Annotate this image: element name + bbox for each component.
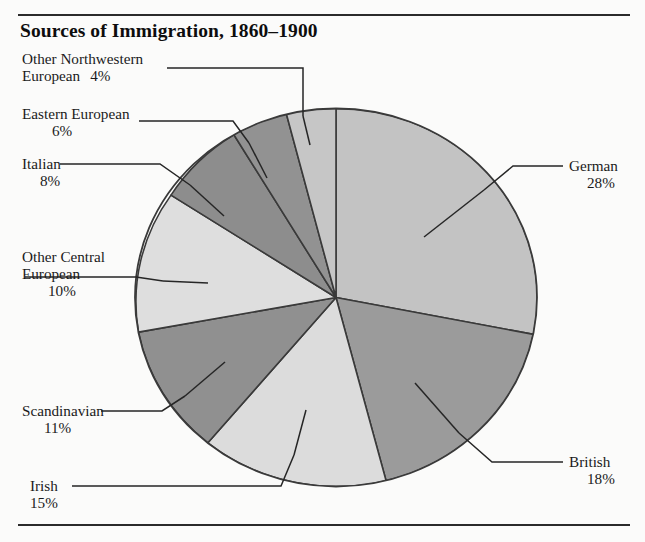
label-percent: 11% xyxy=(22,419,104,436)
slice-label-scandinavian: Scandinavian 11% xyxy=(22,402,104,436)
slice-label-eastern-european: Eastern European 6% xyxy=(22,105,130,139)
leader-line-british xyxy=(459,433,563,462)
label-text-line1: Other Central xyxy=(22,248,105,265)
label-text: British xyxy=(569,453,610,470)
label-percent: 6% xyxy=(22,122,130,139)
label-text-line2: European xyxy=(22,67,80,84)
label-text: Eastern European xyxy=(22,105,130,122)
slice-label-other-central-european: Other Central European 10% xyxy=(22,248,105,299)
chart-page: Sources of Immigration, 1860–1900 xyxy=(0,0,645,542)
bottom-divider-rule xyxy=(18,524,630,526)
pie-slice-german xyxy=(336,108,537,334)
label-percent: 8% xyxy=(22,172,61,189)
label-percent: 18% xyxy=(569,470,615,487)
label-percent: 4% xyxy=(80,67,110,84)
label-percent: 10% xyxy=(22,282,105,299)
label-text: Irish xyxy=(30,477,58,494)
label-percent: 15% xyxy=(30,494,58,511)
label-text: German xyxy=(569,157,618,174)
slice-label-other-northwestern-european: Other Northwestern European4% xyxy=(22,50,143,84)
leader-line-italian xyxy=(60,164,190,185)
slice-label-german: German 28% xyxy=(569,157,618,191)
label-text-line2: European xyxy=(22,265,80,282)
slice-label-italian: Italian 8% xyxy=(22,155,61,189)
leader-line-other-northwestern-european xyxy=(167,68,303,116)
label-text: Scandinavian xyxy=(22,402,104,419)
slice-label-british: British 18% xyxy=(569,453,615,487)
label-text: Italian xyxy=(22,155,61,172)
slice-label-irish: Irish 15% xyxy=(30,477,58,511)
label-percent: 28% xyxy=(569,174,618,191)
label-text-line1: Other Northwestern xyxy=(22,50,143,67)
